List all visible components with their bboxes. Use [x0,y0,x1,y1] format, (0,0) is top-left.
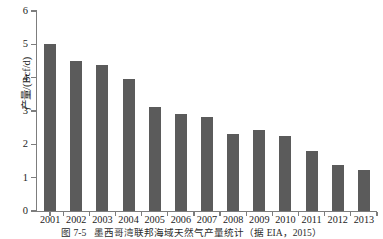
y-axis-tick-label: 6 [23,6,28,17]
bar-2010 [279,136,291,211]
x-axis-tick [272,212,273,216]
x-axis-label-2004: 2004 [118,215,138,225]
x-axis-tick [298,212,299,216]
bar-2012 [332,165,344,211]
bar-2006 [175,114,187,211]
y-axis-tick: 6 [31,10,36,11]
x-axis-tick [167,212,168,216]
bar-2011 [306,151,318,211]
x-axis-tick [376,212,377,216]
x-axis-tick [219,212,220,216]
bar-2001 [44,44,56,211]
x-axis-tick [115,212,116,216]
x-axis-label-2006: 2006 [171,215,191,225]
y-axis-tick: 3 [31,110,36,111]
y-axis-tick: 0 [31,210,36,211]
x-axis-label-2008: 2008 [223,215,243,225]
x-axis-tick [89,212,90,216]
bar-2007 [201,117,213,211]
y-axis-tick-label: 0 [23,206,28,217]
y-axis-tick-label: 2 [23,139,28,150]
x-axis-label-2012: 2012 [328,215,348,225]
x-axis-tick [350,212,351,216]
y-axis-tick: 1 [31,177,36,178]
y-axis-tick-label: 1 [23,172,28,183]
x-axis-tick [246,212,247,216]
figure-bar-chart: 产量/(Bcf/d) 0123456 200120022003200420052… [0,0,383,239]
bar-2002 [70,61,82,211]
x-axis-tick [141,212,142,216]
y-axis-tick-label: 3 [23,106,28,117]
bar-2005 [149,107,161,211]
x-axis-label-2009: 2009 [249,215,269,225]
bar-2003 [96,65,108,211]
x-axis-tick [63,212,64,216]
bar-2004 [123,79,135,211]
x-axis-label-2010: 2010 [275,215,295,225]
x-axis-label-2011: 2011 [302,215,322,225]
x-axis-tick [324,212,325,216]
y-axis-tick-label: 4 [23,72,28,83]
x-axis-tick [193,212,194,216]
figure-caption-number: 图 7-5 [61,227,86,238]
y-axis-tick-label: 5 [23,39,28,50]
y-axis-tick: 2 [31,144,36,145]
x-axis-label-2005: 2005 [145,215,165,225]
x-axis-spine [36,211,377,212]
figure-caption-text: 墨西哥湾联邦海域天然气产量统计（据 EIA，2015） [94,227,322,238]
x-axis-label-2003: 2003 [92,215,112,225]
y-axis-tick: 5 [31,44,36,45]
bars-layer [37,11,377,211]
bar-2008 [227,134,239,211]
x-axis-label-2013: 2013 [354,215,374,225]
x-axis-label-2001: 2001 [40,215,60,225]
x-axis-label-2002: 2002 [66,215,86,225]
bar-2009 [253,130,265,211]
x-axis-label-2007: 2007 [197,215,217,225]
y-axis-tick: 4 [31,77,36,78]
bar-2013 [358,170,370,211]
figure-caption: 图 7-5墨西哥湾联邦海域天然气产量统计（据 EIA，2015） [0,227,383,238]
